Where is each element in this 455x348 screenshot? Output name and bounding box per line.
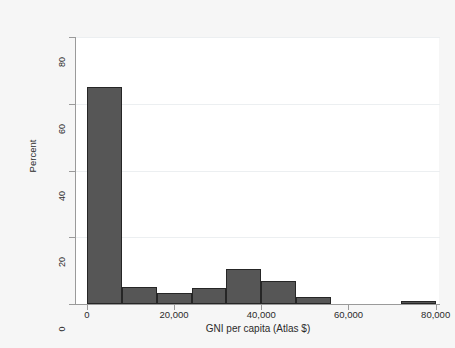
x-tick-label: 0 [84,309,89,320]
histogram-bar [226,269,261,304]
y-tick [69,304,75,305]
x-tick-label: 20,000 [160,309,189,320]
y-tick-label: 0 [57,303,67,348]
histogram-bar [192,288,227,304]
x-tick-label: 40,000 [247,309,276,320]
y-tick-label: 80 [57,36,67,88]
histogram-bar [401,301,436,304]
histogram-bars [76,37,440,304]
histogram-bar [261,281,296,304]
y-tick-label: 20 [57,236,67,288]
x-tick-label: 80,000 [421,309,450,320]
y-tick [69,37,75,38]
x-axis-title: GNI per capita (Atlas $) [206,323,310,334]
y-tick-label: 40 [57,170,67,222]
y-tick [69,171,75,172]
histogram-bar [296,297,331,304]
x-tick-label: 60,000 [334,309,363,320]
x-axis-line [76,304,440,305]
y-axis-title: Percent [27,140,38,173]
histogram-figure: 020406080 020,00040,00060,00080,000 Perc… [0,0,455,348]
graph-region: 020406080 020,00040,00060,00080,000 Perc… [10,8,445,332]
histogram-bar [87,87,122,304]
y-tick-label: 60 [57,103,67,155]
histogram-bar [122,287,157,304]
y-tick [69,237,75,238]
histogram-bar [157,293,192,304]
y-tick [69,104,75,105]
